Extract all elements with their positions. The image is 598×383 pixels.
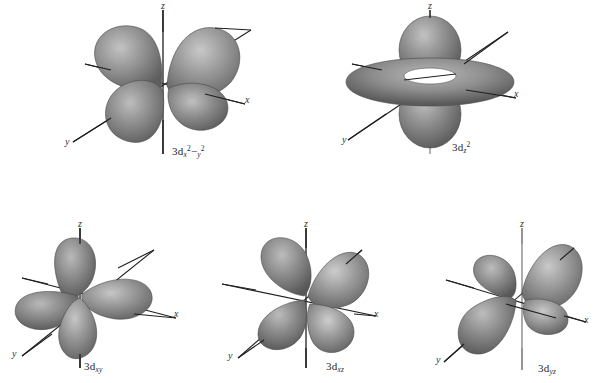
orbital-3d-xy: z x y xyxy=(8,222,188,372)
orbital-3d-z2: z x y xyxy=(338,2,528,162)
orbital-3d-z2-graphic xyxy=(338,2,528,162)
axis-label-x: x xyxy=(174,308,178,319)
axis-label-x: x xyxy=(374,308,378,319)
caption-prefix: 3d xyxy=(172,145,183,157)
axis-label-y: y xyxy=(65,136,69,147)
orbital-3d-xy-graphic xyxy=(8,222,188,372)
axis-label-z: z xyxy=(304,218,308,229)
caption-prefix: 3d xyxy=(84,360,95,372)
axis-label-y: y xyxy=(228,350,232,361)
axis-label-x: x xyxy=(514,88,518,99)
caption-sub: xy xyxy=(95,365,102,374)
caption-sup-z: 2 xyxy=(467,140,471,149)
orbital-3d-yz-graphic xyxy=(428,222,598,372)
caption-3d-x2-y2: 3dx2−y2 xyxy=(172,144,205,159)
orbital-3d-yz: z x y xyxy=(428,222,598,372)
axis-label-z: z xyxy=(520,218,524,229)
caption-3d-yz: 3dyz xyxy=(538,362,556,376)
axis-label-x: x xyxy=(245,94,249,105)
caption-prefix: 3d xyxy=(538,362,549,374)
axis-label-z: z xyxy=(428,0,432,11)
axis-label-y: y xyxy=(12,348,16,359)
axis-label-y: y xyxy=(342,134,346,145)
caption-3d-xz: 3dxz xyxy=(326,360,344,374)
orbital-3d-x2-y2: z x y xyxy=(55,2,270,162)
caption-prefix: 3d xyxy=(326,360,337,372)
caption-sup-y: 2 xyxy=(201,144,205,153)
orbital-3d-x2-y2-graphic xyxy=(55,2,270,162)
axis-label-x: x xyxy=(584,314,588,325)
orbital-3d-xz-graphic xyxy=(212,222,392,372)
caption-sub: yz xyxy=(549,367,556,376)
axis-label-y: y xyxy=(436,354,440,365)
axis-label-z: z xyxy=(78,218,82,229)
caption-prefix: 3d xyxy=(452,141,463,153)
orbital-3d-xz: z x y xyxy=(212,222,392,372)
axis-label-z: z xyxy=(161,0,165,11)
caption-sub: xz xyxy=(337,365,344,374)
caption-3d-xy: 3dxy xyxy=(84,360,102,374)
caption-3d-z2: 3dz2 xyxy=(452,140,470,155)
d-orbital-figure: z x y 3dx2−y2 xyxy=(0,0,598,383)
